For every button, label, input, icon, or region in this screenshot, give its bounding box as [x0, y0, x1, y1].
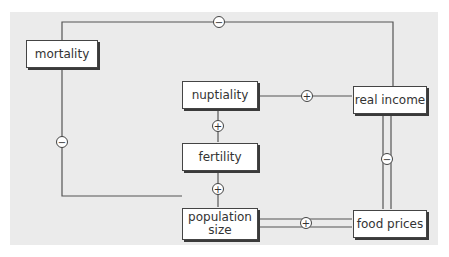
node-population-size: population size — [182, 208, 258, 240]
sign-plus-icon: + — [212, 183, 224, 195]
sign-minus-icon: − — [56, 136, 68, 148]
sign-minus-icon: − — [213, 16, 225, 28]
node-nuptiality-label: nuptiality — [192, 89, 249, 102]
node-mortality: mortality — [26, 40, 98, 68]
node-food-prices: food prices — [353, 210, 427, 238]
link-mortality-population — [62, 58, 182, 196]
link-income-mortality — [62, 22, 393, 87]
node-fertility-label: fertility — [198, 151, 241, 164]
node-real-income: real income — [353, 86, 427, 114]
node-mortality-label: mortality — [35, 48, 90, 61]
node-fertility: fertility — [182, 143, 258, 171]
node-nuptiality: nuptiality — [182, 81, 258, 109]
node-food-prices-label: food prices — [357, 218, 423, 231]
node-population-label-2: size — [208, 224, 231, 237]
sign-minus-icon: − — [381, 153, 393, 165]
sign-plus-icon: + — [301, 90, 313, 102]
node-real-income-label: real income — [355, 94, 426, 107]
sign-plus-icon: + — [212, 120, 224, 132]
sign-plus-icon: + — [300, 217, 312, 229]
